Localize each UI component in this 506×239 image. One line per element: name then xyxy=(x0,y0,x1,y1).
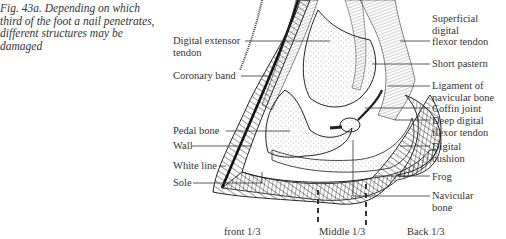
zone-label-front: front 1/3 xyxy=(224,226,260,238)
label-navicular-bone: Navicular bone xyxy=(432,190,473,213)
label-frog: Frog xyxy=(432,171,452,183)
label-short-pastern: Short pastern xyxy=(432,58,488,70)
label-sole: Sole xyxy=(173,177,192,189)
label-digital-extensor-tendon: Digital extensor tendon xyxy=(173,35,253,58)
navicular-bone xyxy=(340,118,360,132)
zone-label-back: Back 1/3 xyxy=(407,226,445,238)
zone-label-middle: Middle 1/3 xyxy=(319,226,365,238)
label-coronary-band: Coronary band xyxy=(173,70,236,82)
label-pedal-bone: Pedal bone xyxy=(173,125,219,137)
label-ligament-navicular-bone: Ligament of navicular bone xyxy=(432,80,494,103)
label-white-line: White line xyxy=(173,160,217,172)
label-superficial-digital-flexor-tendon: Superficial digital flexor tendon xyxy=(432,13,488,48)
label-deep-digital-flexor-tendon: Deep digital flexor tendon xyxy=(432,115,488,138)
label-wall: Wall xyxy=(173,140,193,152)
hoof-cross-section-diagram xyxy=(0,0,506,239)
label-digital-cushion: Digital cushion xyxy=(432,141,465,164)
label-coffin-joint: Coffin joint xyxy=(432,103,481,115)
